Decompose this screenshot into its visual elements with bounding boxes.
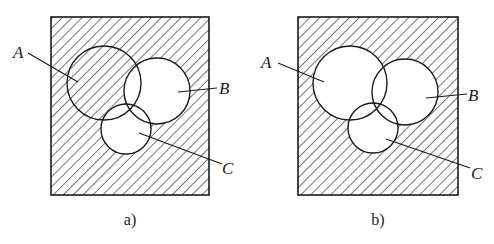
label-c: C bbox=[222, 159, 234, 178]
venn-diagram-figure: A B C a) A B C b) bbox=[0, 0, 494, 244]
label-c: C bbox=[471, 164, 483, 183]
label-a: A bbox=[260, 53, 272, 72]
label-b: B bbox=[468, 86, 479, 105]
caption-a: a) bbox=[124, 211, 136, 229]
label-a: A bbox=[12, 43, 24, 62]
label-b: B bbox=[219, 79, 230, 98]
caption-b: b) bbox=[371, 211, 384, 229]
venn-panel-a: A B C a) bbox=[12, 17, 234, 229]
venn-panel-b: A B C b) bbox=[260, 17, 483, 229]
